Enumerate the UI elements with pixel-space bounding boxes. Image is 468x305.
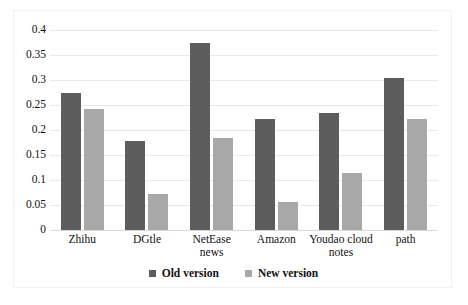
y-axis-tick-label: 0.25 — [6, 99, 46, 111]
bar — [342, 173, 362, 231]
x-axis-category-label: Zhihu — [50, 233, 115, 246]
y-axis-tick-label: 0.4 — [6, 24, 46, 36]
x-axis-category-label: Youdao cloud notes — [309, 233, 374, 259]
bar — [255, 119, 275, 231]
legend-swatch-icon — [149, 270, 156, 277]
chart-legend: Old versionNew version — [14, 268, 453, 280]
bar-group — [50, 30, 115, 230]
x-axis-labels: ZhihuDGtleNetEase newsAmazonYoudao cloud… — [50, 233, 438, 267]
bar — [148, 194, 168, 230]
gridline — [50, 230, 438, 231]
y-axis-tick-label: 0.1 — [6, 174, 46, 186]
y-axis-tick-label: 0.05 — [6, 199, 46, 211]
y-axis-tick-label: 0 — [6, 224, 46, 236]
bar-group — [373, 30, 438, 230]
y-axis-tick-label: 0.35 — [6, 49, 46, 61]
x-axis-category-label: DGtle — [115, 233, 180, 246]
x-axis-category-label: NetEase news — [179, 233, 244, 259]
legend-swatch-icon — [245, 270, 252, 277]
bar — [84, 109, 104, 231]
x-axis-category-label: path — [373, 233, 438, 246]
plot-area — [50, 30, 438, 230]
bar-group — [309, 30, 374, 230]
bar-group — [244, 30, 309, 230]
legend-item[interactable]: New version — [245, 268, 318, 280]
bar — [319, 113, 339, 231]
legend-item[interactable]: Old version — [149, 268, 219, 280]
bar — [407, 119, 427, 230]
bar — [190, 43, 210, 231]
bar — [125, 141, 145, 230]
y-axis-tick-label: 0.2 — [6, 124, 46, 136]
legend-label: Old version — [162, 268, 219, 280]
bar — [278, 202, 298, 231]
x-axis-category-label: Amazon — [244, 233, 309, 246]
bar-group — [179, 30, 244, 230]
bar — [61, 93, 81, 231]
chart-container: 0.40.350.30.250.20.150.10.050 ZhihuDGtle… — [13, 10, 452, 288]
bar — [213, 138, 233, 231]
bar — [384, 78, 404, 231]
y-axis: 0.40.350.30.250.20.150.10.050 — [14, 30, 46, 230]
y-axis-tick-label: 0.15 — [6, 149, 46, 161]
legend-label: New version — [258, 268, 318, 280]
y-axis-tick-label: 0.3 — [6, 74, 46, 86]
bar-group — [115, 30, 180, 230]
